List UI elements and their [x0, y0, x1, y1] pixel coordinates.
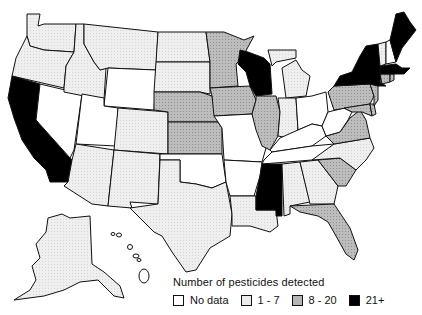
legend-label: 1 - 7	[258, 294, 280, 306]
swatch-21-plus	[349, 295, 360, 306]
state-VT	[378, 42, 386, 66]
state-NM	[108, 150, 160, 208]
state-HI	[111, 233, 149, 284]
legend-item-8-20: 8 - 20	[292, 294, 337, 306]
legend-item-21-plus: 21+	[349, 294, 385, 306]
us-choropleth-map	[0, 0, 422, 315]
swatch-1-7	[241, 295, 252, 306]
swatch-no-data	[173, 295, 184, 306]
swatch-8-20	[292, 295, 303, 306]
state-MA	[380, 64, 410, 74]
state-MI	[268, 50, 310, 98]
state-RI	[390, 74, 394, 82]
state-CT	[380, 74, 390, 84]
state-WA	[27, 14, 76, 52]
state-AR	[224, 160, 262, 196]
state-SD	[154, 62, 210, 94]
map-legend: Number of pesticides detected No data 1 …	[173, 276, 422, 306]
state-FL	[290, 204, 358, 260]
legend-label: 21+	[366, 294, 385, 306]
state-ME	[390, 12, 416, 62]
legend-title: Number of pesticides detected	[173, 276, 422, 288]
legend-items: No data 1 - 7 8 - 20 21+	[173, 294, 422, 306]
state-WY	[104, 68, 156, 110]
state-ND	[156, 32, 210, 62]
state-IA	[210, 86, 256, 116]
state-AK	[14, 214, 124, 300]
legend-item-1-7: 1 - 7	[241, 294, 280, 306]
legend-label: No data	[190, 294, 229, 306]
state-KS	[168, 122, 222, 154]
legend-item-no-data: No data	[173, 294, 229, 306]
state-CO	[114, 108, 168, 154]
legend-label: 8 - 20	[309, 294, 337, 306]
state-MT	[84, 24, 158, 70]
